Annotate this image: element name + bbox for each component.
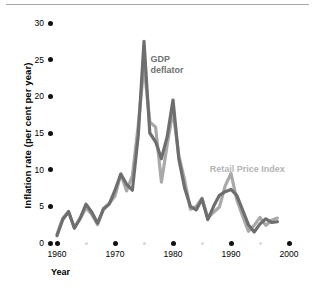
x-axis-title: Year bbox=[51, 267, 70, 277]
gdp-label-line-2: deflator bbox=[151, 65, 184, 75]
series-label-gdp-deflator: GDP deflator bbox=[151, 54, 184, 76]
series-label-retail-price-index: Retail Price Index bbox=[210, 164, 285, 175]
chart-figure: Inflation rate (per cent per year) 05101… bbox=[0, 0, 315, 292]
gdp-label-line-1: GDP bbox=[151, 54, 171, 64]
plot-area bbox=[0, 0, 315, 292]
